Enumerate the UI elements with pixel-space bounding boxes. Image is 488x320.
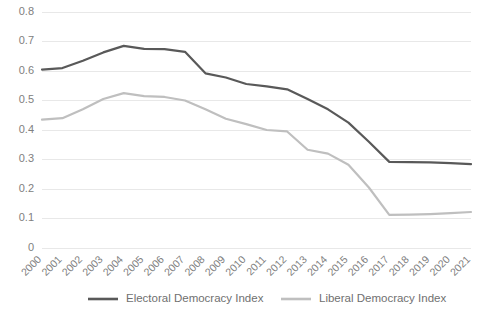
legend-label-2: Liberal Democracy Index bbox=[319, 292, 446, 304]
x-axis-tick-label: 2000 bbox=[18, 253, 43, 278]
x-axis-tick-label: 2015 bbox=[325, 253, 350, 278]
chart-legend: Electoral Democracy IndexLiberal Democra… bbox=[88, 292, 446, 304]
chart-container: 0.80.70.60.50.40.30.20.10 20002001200220… bbox=[0, 0, 488, 320]
x-axis-tick-label: 2011 bbox=[244, 253, 269, 278]
series-line-liberal-democracy-index bbox=[42, 93, 471, 215]
x-axis-tick-label: 2019 bbox=[407, 253, 432, 278]
y-axis-tick-label: 0.6 bbox=[19, 64, 34, 76]
x-axis-tick-label: 2001 bbox=[39, 253, 64, 278]
x-axis-tick-label: 2004 bbox=[100, 253, 125, 278]
y-axis-tick-labels: 0.80.70.60.50.40.30.20.10 bbox=[19, 5, 34, 253]
y-axis-tick-label: 0.5 bbox=[19, 93, 34, 105]
x-axis-tick-label: 2008 bbox=[182, 253, 207, 278]
x-axis-tick-label: 2014 bbox=[304, 253, 329, 278]
x-axis-tick-label: 2016 bbox=[345, 253, 370, 278]
x-axis-tick-label: 2017 bbox=[366, 253, 391, 278]
y-axis-tick-label: 0.8 bbox=[19, 5, 34, 17]
x-axis-tick-label: 2018 bbox=[386, 253, 411, 278]
y-axis-tick-label: 0.7 bbox=[19, 34, 34, 46]
x-axis-tick-label: 2007 bbox=[161, 253, 186, 278]
y-axis-tick-label: 0.2 bbox=[19, 182, 34, 194]
x-axis-tick-label: 2009 bbox=[202, 253, 227, 278]
x-axis-tick-label: 2002 bbox=[59, 253, 84, 278]
x-axis-tick-labels: 2000200120022003200420052006200720082009… bbox=[18, 253, 472, 278]
y-axis-tick-label: 0 bbox=[28, 241, 34, 253]
y-axis-tick-label: 0.1 bbox=[19, 211, 34, 223]
x-axis-tick-label: 2021 bbox=[447, 253, 472, 278]
x-axis-tick-label: 2005 bbox=[121, 253, 146, 278]
x-axis-tick-label: 2020 bbox=[427, 253, 452, 278]
gridlines-group bbox=[42, 12, 471, 248]
series-line-electoral-democracy-index bbox=[42, 46, 471, 164]
x-axis-tick-label: 2006 bbox=[141, 253, 166, 278]
line-chart: 0.80.70.60.50.40.30.20.10 20002001200220… bbox=[0, 0, 488, 320]
x-axis-tick-label: 2003 bbox=[80, 253, 105, 278]
y-axis-tick-label: 0.4 bbox=[19, 123, 34, 135]
x-axis-tick-label: 2010 bbox=[223, 253, 248, 278]
x-axis-tick-label: 2013 bbox=[284, 253, 309, 278]
x-axis-tick-label: 2012 bbox=[264, 253, 289, 278]
legend-label-1: Electoral Democracy Index bbox=[126, 292, 264, 304]
y-axis-tick-label: 0.3 bbox=[19, 152, 34, 164]
